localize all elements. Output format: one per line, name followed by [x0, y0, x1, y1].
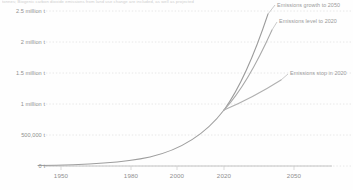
- annotation-emissions-level: Emissions level to 2020: [279, 18, 337, 24]
- series-line-emissions-stop: [224, 80, 281, 110]
- y-tick-label: 1 million t: [0, 101, 45, 107]
- x-tick-label-1950: 1950: [54, 172, 68, 179]
- emissions-projection-chart: tonnes; Biogenic carbon dioxide emission…: [0, 0, 353, 190]
- gridlines: [46, 11, 351, 166]
- series-line-emissions-growth: [224, 14, 268, 110]
- x-tick-label-2020: 2020: [217, 172, 231, 179]
- x-tick-label-1980: 1980: [124, 172, 138, 179]
- annotation-emissions-stop: Emissions stop in 2020: [290, 70, 347, 76]
- y-tick-label: 2 million t: [0, 39, 45, 45]
- y-tick-label: 0 t: [0, 163, 45, 169]
- x-axis-ticks: [61, 166, 294, 170]
- annotation-emissions-growth: Emissions growth to 2050: [277, 2, 340, 8]
- y-tick-label: 500,000 t: [0, 132, 45, 138]
- y-tick-label: 2.5 million t: [0, 8, 45, 14]
- x-tick-label-2000: 2000: [170, 172, 184, 179]
- series-historical-line: [38, 110, 224, 166]
- chart-plot-area: [0, 0, 353, 190]
- y-tick-label: 1.5 million t: [0, 70, 45, 76]
- x-tick-label-2050: 2050: [287, 172, 301, 179]
- annotation-leader-lines: [268, 5, 288, 80]
